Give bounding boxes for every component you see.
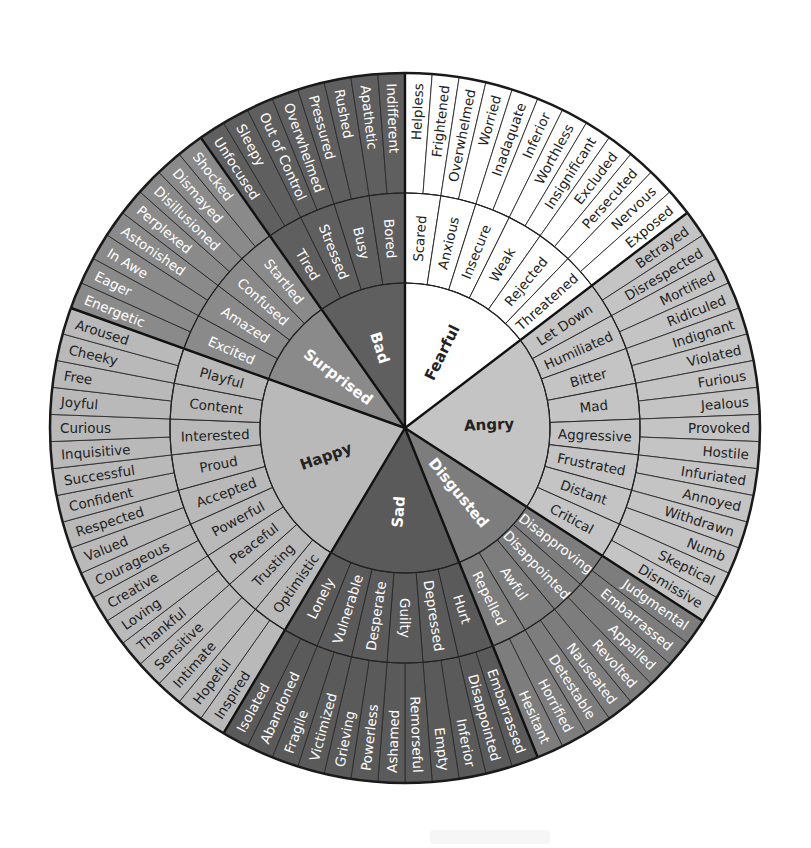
outer-label-helpless: Helpless (408, 83, 426, 140)
outer-label-joyful: Joyful (59, 394, 98, 413)
middle-label-mad: Mad (579, 397, 609, 416)
middle-label-guilty: Guilty (397, 598, 413, 638)
middle-label-aggressive: Aggressive (558, 426, 633, 445)
outer-label-indifferent: Indifferent (384, 83, 403, 153)
feelings-wheel: HelplessFrightenedOverwhelmedWorriedInad… (0, 0, 811, 848)
scan-artifact (430, 830, 550, 844)
core-label-angry: Angry (464, 415, 515, 435)
core-label-sad: Sad (388, 495, 408, 528)
middle-label-bored: Bored (381, 218, 400, 259)
middle-label-interested: Interested (180, 426, 249, 445)
outer-label-curious: Curious (60, 420, 111, 436)
outer-label-provoked: Provoked (688, 420, 750, 436)
outer-label-ashamed: Ashamed (384, 709, 402, 773)
outer-label-remorseful: Remorseful (407, 696, 426, 773)
